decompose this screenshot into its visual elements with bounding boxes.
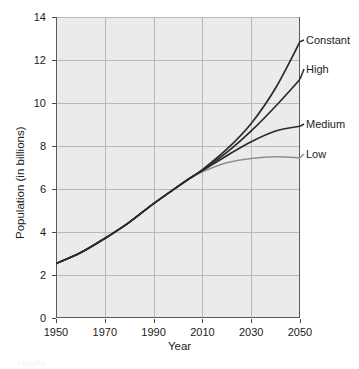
series-leader-high (300, 69, 304, 79)
series-leader-low (300, 154, 304, 158)
series-label-medium: Medium (306, 118, 345, 130)
population-projection-figure: 02468101214195019701990201020302050 Cons… (0, 0, 359, 369)
series-curve-layer (0, 0, 359, 369)
series-line-medium (56, 126, 300, 263)
series-label-constant: Constant (306, 34, 350, 46)
series-leader-constant (300, 40, 304, 42)
y-axis-title: Population (in billions) (14, 126, 26, 239)
series-line-constant (56, 42, 300, 264)
figure-caption: FIGURE (18, 360, 359, 367)
series-label-high: High (306, 63, 329, 75)
series-leader-medium (300, 124, 304, 126)
series-label-low: Low (306, 148, 326, 160)
series-line-low (56, 157, 300, 264)
x-axis-title: Year (0, 340, 359, 352)
